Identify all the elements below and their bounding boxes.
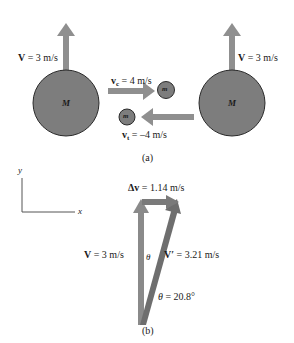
vector-triangle xyxy=(133,195,181,325)
initial-velocity-label: V = 3 m/s xyxy=(84,250,124,260)
outgoing-velocity-label: vt = –4 m/s xyxy=(122,130,167,142)
y-axis-label: y xyxy=(18,166,22,175)
incoming-velocity-label: vc = 4 m/s xyxy=(111,76,152,88)
angle-theta-marker: θ xyxy=(146,253,150,262)
panel-a-caption: (a) xyxy=(142,153,153,163)
outgoing-velocity-arrow xyxy=(141,108,194,126)
left-velocity-label: V = 3 m/s xyxy=(18,53,58,63)
coordinate-axes xyxy=(22,178,75,212)
right-mass-label: M xyxy=(228,99,236,108)
left-velocity-arrow xyxy=(57,23,75,72)
angle-value-label: θ = 20.8° xyxy=(158,292,195,302)
delta-v-label: Δv = 1.14 m/s xyxy=(128,183,184,193)
left-mass-label: M xyxy=(62,99,70,108)
panel-b-caption: (b) xyxy=(142,326,154,336)
incoming-mass-label: m xyxy=(162,86,167,93)
outgoing-mass-label: m xyxy=(123,113,128,120)
x-axis-label: x xyxy=(78,207,82,216)
right-velocity-arrow xyxy=(223,23,241,72)
momentum-diagram: V = 3 m/s M V = 3 m/s M vc = 4 m/s m vt … xyxy=(0,0,294,343)
right-velocity-label: V = 3 m/s xyxy=(238,53,278,63)
final-velocity-label: V′ = 3.21 m/s xyxy=(164,250,219,260)
